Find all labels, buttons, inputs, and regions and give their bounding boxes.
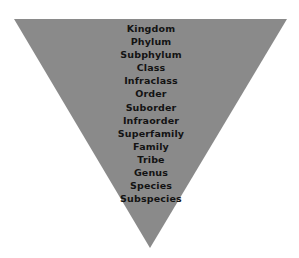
rank-item-superfamily: Superfamily <box>0 127 299 140</box>
rank-item-infraclass: Infraclass <box>0 74 299 87</box>
rank-item-family: Family <box>0 140 299 153</box>
rank-item-genus: Genus <box>0 166 299 179</box>
rank-item-infraorder: Infraorder <box>0 114 299 127</box>
rank-item-class: Class <box>0 61 299 74</box>
rank-item-order: Order <box>0 87 299 100</box>
rank-item-phylum: Phylum <box>0 35 299 48</box>
rank-item-species: Species <box>0 179 299 192</box>
rank-item-suborder: Suborder <box>0 101 299 114</box>
rank-item-subspecies: Subspecies <box>0 192 299 205</box>
rank-item-tribe: Tribe <box>0 153 299 166</box>
taxonomic-rank-list: Kingdom Phylum Subphylum Class Infraclas… <box>0 22 299 205</box>
rank-item-subphylum: Subphylum <box>0 48 299 61</box>
taxonomy-triangle-diagram: Kingdom Phylum Subphylum Class Infraclas… <box>0 0 299 258</box>
rank-item-kingdom: Kingdom <box>0 22 299 35</box>
